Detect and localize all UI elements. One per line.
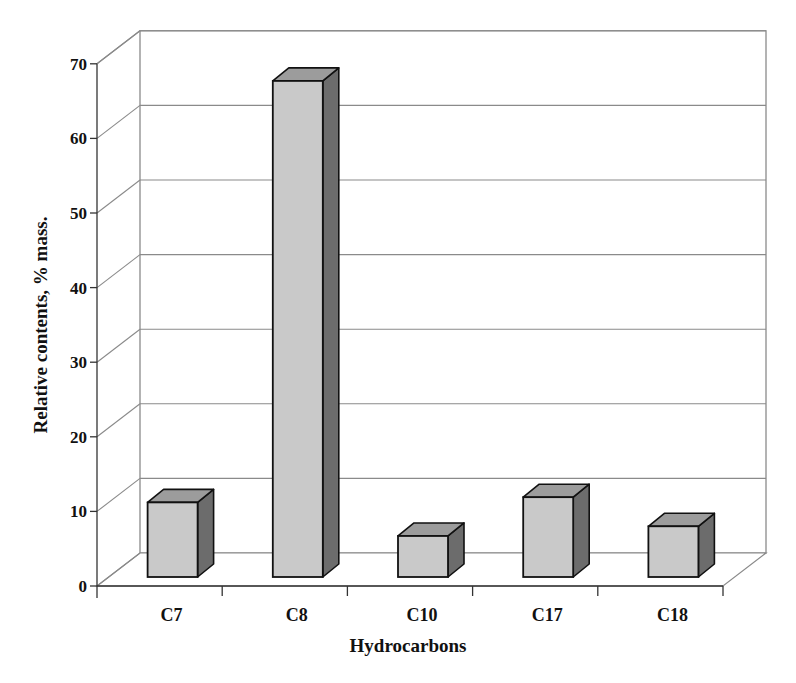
y-tick-label: 10 xyxy=(70,502,87,521)
y-tick-label: 20 xyxy=(70,428,87,447)
y-tick-label: 70 xyxy=(70,55,87,74)
x-tick-label: C8 xyxy=(286,605,308,625)
bar-chart: 010203040506070 C7C8C10C17C18 Relative c… xyxy=(0,0,796,683)
gridline-side xyxy=(97,180,140,213)
y-tick-label: 30 xyxy=(70,353,87,372)
back-wall xyxy=(140,31,766,553)
y-tick-label: 0 xyxy=(79,577,88,596)
gridline-side xyxy=(97,105,140,138)
gridline-side xyxy=(97,404,140,437)
y-tick-labels: 010203040506070 xyxy=(70,55,87,596)
bar-c7 xyxy=(148,489,214,577)
y-tick-label: 60 xyxy=(70,129,87,148)
bar-front-face xyxy=(273,81,323,577)
y-tick-label: 40 xyxy=(70,279,87,298)
gridline-side xyxy=(97,31,140,64)
x-tick-label: C7 xyxy=(161,605,183,625)
bar-front-face xyxy=(398,536,448,577)
bar-side-face xyxy=(573,484,589,577)
bar-front-face xyxy=(148,502,198,577)
bar-front-face xyxy=(648,526,698,577)
x-axis-title: Hydrocarbons xyxy=(350,635,467,656)
gridline-side xyxy=(97,478,140,511)
x-tick-label: C18 xyxy=(657,605,688,625)
bar-c8 xyxy=(273,68,339,577)
x-tick-label: C10 xyxy=(407,605,438,625)
y-axis-title: Relative contents, % mass. xyxy=(30,217,51,434)
bar-side-face xyxy=(198,489,214,577)
gridline-side xyxy=(97,329,140,362)
gridline-side xyxy=(97,255,140,288)
y-tick-label: 50 xyxy=(70,204,87,223)
bar-front-face xyxy=(523,497,573,577)
bar-c10 xyxy=(398,523,464,577)
x-tick-label: C17 xyxy=(532,605,563,625)
bar-side-face xyxy=(323,68,339,577)
bar-c18 xyxy=(648,513,714,577)
bar-c17 xyxy=(523,484,589,577)
x-tick-labels: C7C8C10C17C18 xyxy=(161,605,688,625)
